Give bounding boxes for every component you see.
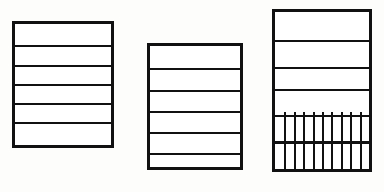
grid-zone	[275, 112, 369, 169]
row-divider	[15, 84, 111, 86]
row-divider	[150, 90, 240, 92]
table-right	[272, 9, 372, 172]
row-divider	[15, 103, 111, 105]
row-divider	[15, 65, 111, 67]
row-divider	[275, 67, 369, 69]
row-divider	[150, 68, 240, 70]
row-divider	[275, 40, 369, 42]
table-left	[12, 21, 114, 148]
row-divider	[15, 122, 111, 124]
row-divider	[275, 89, 369, 91]
row-divider	[150, 153, 240, 155]
figure-canvas	[0, 0, 384, 192]
grid-row-divider	[275, 141, 369, 143]
table-middle	[147, 43, 243, 170]
row-divider	[15, 45, 111, 47]
row-divider	[150, 111, 240, 113]
row-divider	[150, 132, 240, 134]
